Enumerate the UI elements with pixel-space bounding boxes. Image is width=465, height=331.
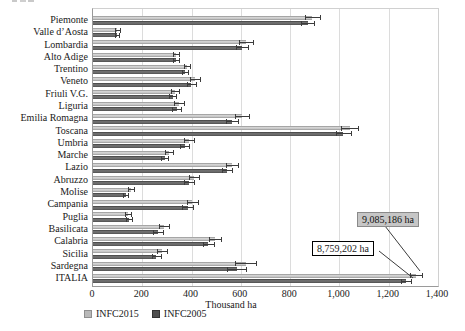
error-cap-outer: [358, 126, 359, 131]
error-cap-inner: [174, 101, 175, 106]
error-cap-outer: [422, 273, 423, 278]
error-cap-inner: [226, 119, 227, 124]
error-cap-inner: [182, 70, 183, 75]
region-label-toscana: Toscana: [0, 125, 88, 136]
error-cap-inner: [126, 217, 127, 222]
error-bar-infc2005-veneto: [187, 84, 196, 85]
error-cap-inner: [336, 131, 337, 136]
region-label-sardegna: Sardegna: [0, 260, 88, 271]
error-bar-infc2005-calabria: [203, 244, 214, 245]
error-cap-inner: [305, 15, 306, 20]
bar-infc2015-piemonte: [93, 16, 312, 20]
bar-infc2015-lombardia: [93, 40, 246, 44]
region-label-abruzzo: Abruzzo: [0, 174, 88, 185]
bar-infc2015-liguria: [93, 102, 179, 106]
error-cap-outer: [167, 249, 168, 254]
legend-label-infc2015: INFC2015: [96, 308, 139, 319]
error-cap-outer: [179, 89, 180, 94]
region-label-calabria: Calabria: [0, 235, 88, 246]
region-label-emilia-romagna: Emilia Romagna: [0, 112, 88, 123]
error-cap-inner: [182, 205, 183, 210]
region-label-campania: Campania: [0, 198, 88, 209]
error-cap-inner: [180, 144, 181, 149]
plot-area: [92, 8, 439, 287]
error-cap-outer: [238, 163, 239, 168]
error-cap-outer: [128, 193, 129, 198]
error-cap-outer: [214, 242, 215, 247]
bar-infc2005-basilicata: [93, 230, 158, 234]
error-cap-outer: [256, 261, 257, 266]
error-cap-outer: [238, 119, 239, 124]
error-cap-inner: [173, 58, 174, 63]
error-cap-inner: [401, 279, 402, 284]
error-cap-outer: [176, 94, 177, 99]
error-cap-outer: [161, 254, 162, 259]
error-cap-outer: [221, 237, 222, 242]
bar-infc2015-trentino: [93, 65, 187, 69]
error-cap-inner: [159, 224, 160, 229]
x-tick-label-1,000: 1,000: [316, 288, 360, 299]
italia-total-2005-callout: 8,759,202 ha: [312, 241, 374, 256]
error-bar-infc2015-emilia-romagna: [235, 116, 249, 117]
bar-infc2005-sardegna: [93, 267, 237, 271]
error-cap-outer: [253, 40, 254, 45]
region-label-friuli-v-g-: Friuli V.G.: [0, 88, 88, 99]
error-cap-outer: [120, 28, 121, 33]
region-label-lombardia: Lombardia: [0, 39, 88, 50]
error-bar-infc2015-sicilia: [157, 251, 167, 252]
bar-infc2005-sicilia: [93, 255, 156, 259]
region-label-umbria: Umbria: [0, 137, 88, 148]
error-cap-inner: [222, 168, 223, 173]
error-cap-inner: [161, 156, 162, 161]
error-cap-outer: [194, 180, 195, 185]
error-cap-inner: [190, 77, 191, 82]
error-cap-outer: [131, 212, 132, 217]
error-bar-infc2005-basilicata: [153, 232, 163, 233]
bar-infc2015-emilia-romagna: [93, 114, 242, 118]
error-cap-outer: [351, 131, 352, 136]
error-cap-outer: [196, 82, 197, 87]
bar-infc2015-veneto: [93, 77, 195, 81]
italia-total-2015-callout: 9,085,186 ha: [357, 212, 419, 227]
legend-item-infc2015: INFC2015: [84, 308, 139, 319]
error-cap-inner: [341, 126, 342, 131]
legend-swatch-infc2015-icon: [84, 310, 92, 318]
error-cap-outer: [314, 21, 315, 26]
error-cap-outer: [200, 77, 201, 82]
error-cap-inner: [235, 114, 236, 119]
x-tick-label-1,200: 1,200: [366, 288, 410, 299]
error-bar-infc2005-lazio: [222, 170, 233, 171]
error-cap-inner: [203, 242, 204, 247]
error-cap-inner: [184, 64, 185, 69]
error-cap-outer: [232, 168, 233, 173]
bar-infc2005-toscana: [93, 132, 343, 136]
region-label-basilicata: Basilicata: [0, 223, 88, 234]
error-cap-outer: [193, 205, 194, 210]
error-cap-inner: [157, 249, 158, 254]
error-cap-outer: [181, 107, 182, 112]
error-bar-infc2015-lazio: [226, 165, 238, 166]
error-bar-infc2015-calabria: [209, 239, 221, 240]
bar-infc2015-sardegna: [93, 262, 246, 266]
error-bar-infc2015-campania: [187, 202, 198, 203]
error-cap-outer: [132, 217, 133, 222]
error-cap-outer: [248, 45, 249, 50]
region-label-sicilia: Sicilia: [0, 248, 88, 259]
error-cap-inner: [172, 107, 173, 112]
region-label-veneto: Veneto: [0, 75, 88, 86]
bar-infc2005-umbria: [93, 144, 185, 148]
error-cap-inner: [410, 273, 411, 278]
error-cap-inner: [115, 28, 116, 33]
bar-infc2015-sicilia: [93, 249, 162, 253]
bar-infc2005-friuli-v-g-: [93, 95, 173, 99]
x-tick-label-0: 0: [70, 288, 114, 299]
error-bar-infc2005-emilia-romagna: [226, 121, 238, 122]
bar-infc2015-molise: [93, 188, 131, 192]
error-cap-inner: [239, 40, 240, 45]
bar-infc2005-calabria: [93, 242, 208, 246]
error-bar-infc2005-italia: [401, 281, 412, 282]
bar-infc2015-valle-d-aosta: [93, 28, 117, 32]
gridline-600: [241, 9, 242, 286]
region-label-liguria: Liguria: [0, 100, 88, 111]
bar-infc2005-campania: [93, 206, 188, 210]
